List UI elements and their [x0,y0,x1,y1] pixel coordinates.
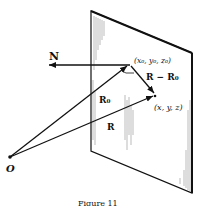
origin-point [8,155,12,159]
point-xyz [154,95,157,98]
label-r: R [107,122,115,132]
label-point0: (x₀, y₀, z₀) [134,56,171,65]
label-r0: R₀ [99,95,110,105]
plane-diagram: N (x₀, y₀, z₀) R − R₀ R₀ (x, y, z) R O F… [0,0,208,206]
label-origin: O [6,163,15,174]
label-point-xyz: (x, y, z) [154,103,183,112]
figure-caption: Figure 11 [78,199,118,206]
label-normal: N [49,50,59,63]
label-r-minus-r0: R − R₀ [146,72,179,82]
